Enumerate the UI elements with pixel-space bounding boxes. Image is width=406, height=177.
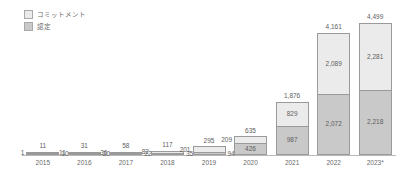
- x-tick-2016: 2016: [64, 158, 104, 168]
- bar-group-2022[interactable]: 4,1612,0892,072: [314, 33, 354, 155]
- bar-stack: 11110: [26, 152, 59, 155]
- bar-segment-certification[interactable]: 2,218: [359, 90, 392, 155]
- x-tick-2021: 2021: [272, 158, 312, 168]
- bar-segment-certification[interactable]: 10: [26, 153, 59, 155]
- bar-segment-certification[interactable]: 22: [109, 153, 142, 155]
- bar-segment-commitment[interactable]: 829: [276, 102, 309, 126]
- bar-total-label: 31: [81, 143, 88, 150]
- bar-stack: 635209426: [234, 136, 267, 155]
- bar-stack: 583622: [109, 152, 142, 155]
- bar-segment-label-commitment: 209: [221, 137, 232, 144]
- bar-segment-certification[interactable]: 20: [68, 153, 101, 155]
- bar-stack: 4,4992,2812,218: [359, 23, 392, 155]
- bar-total-label: 117: [162, 142, 172, 149]
- bar-stack: 29520194: [193, 146, 226, 155]
- bar-segment-certification[interactable]: 426: [234, 143, 267, 156]
- bar-group-2020[interactable]: 635209426: [231, 136, 271, 155]
- bar-segment-certification[interactable]: 2,072: [317, 94, 350, 155]
- bar-segment-label-commitment: 82: [142, 149, 149, 156]
- bar-segment-label-commitment: 2,089: [326, 61, 342, 68]
- bar-total-label: 295: [204, 138, 215, 145]
- bar-group-2019[interactable]: 29520194: [189, 146, 229, 155]
- bar-total-label: 11: [39, 143, 46, 150]
- bar-segment-label-certification: 987: [287, 137, 298, 144]
- x-tick-2018: 2018: [147, 158, 187, 168]
- bar-group-2015[interactable]: 11110: [23, 152, 63, 155]
- bar-total-label: 4,161: [326, 24, 342, 31]
- bar-stack: 1,876829987: [276, 102, 309, 155]
- bar-segment-label-commitment: 36: [100, 150, 107, 157]
- bar-stack: 311120: [68, 152, 101, 155]
- x-axis-ticks: 201520162017201820192020202120222023*: [22, 158, 396, 172]
- bar-segment-certification[interactable]: 35: [151, 153, 184, 155]
- bar-segment-label-certification: 2,072: [326, 121, 342, 128]
- x-tick-2017: 2017: [106, 158, 146, 168]
- bar-segment-certification[interactable]: 94: [193, 152, 226, 155]
- bar-group-2017[interactable]: 583622: [106, 152, 146, 155]
- bar-segment-commitment[interactable]: 2,089: [317, 33, 350, 94]
- bar-total-label: 635: [245, 128, 256, 135]
- bar-segment-commitment[interactable]: 2,281: [359, 23, 392, 90]
- bar-segment-label-commitment: 829: [287, 111, 298, 118]
- plot-area: 1111031112058362211782352952019463520942…: [22, 6, 396, 156]
- bar-segment-label-certification: 426: [245, 146, 256, 153]
- bar-stack: 4,1612,0892,072: [317, 33, 350, 155]
- x-tick-2022: 2022: [314, 158, 354, 168]
- bar-segment-label-commitment: 201: [180, 147, 191, 154]
- bar-group-2021[interactable]: 1,876829987: [272, 102, 312, 155]
- bar-segment-certification[interactable]: 987: [276, 126, 309, 155]
- bar-segment-label-commitment: 2,281: [367, 54, 383, 61]
- x-tick-2023: 2023*: [355, 158, 395, 168]
- x-tick-2019: 2019: [189, 158, 229, 168]
- bar-total-label: 4,499: [367, 14, 383, 21]
- bar-total-label: 1,876: [284, 93, 300, 100]
- x-axis-line: [22, 155, 396, 156]
- x-tick-2020: 2020: [231, 158, 271, 168]
- bar-total-label: 58: [122, 143, 129, 150]
- x-tick-2015: 2015: [23, 158, 63, 168]
- stacked-bar-chart: コミットメント 認定 11110311120583622117823529520…: [0, 0, 406, 177]
- bar-segment-label-commitment: 11: [59, 150, 66, 157]
- bar-segment-label-commitment: 1: [21, 150, 25, 157]
- bar-group-2016[interactable]: 311120: [64, 152, 104, 155]
- bar-group-2023[interactable]: 4,4992,2812,218: [355, 23, 395, 155]
- bar-segment-label-certification: 2,218: [367, 119, 383, 126]
